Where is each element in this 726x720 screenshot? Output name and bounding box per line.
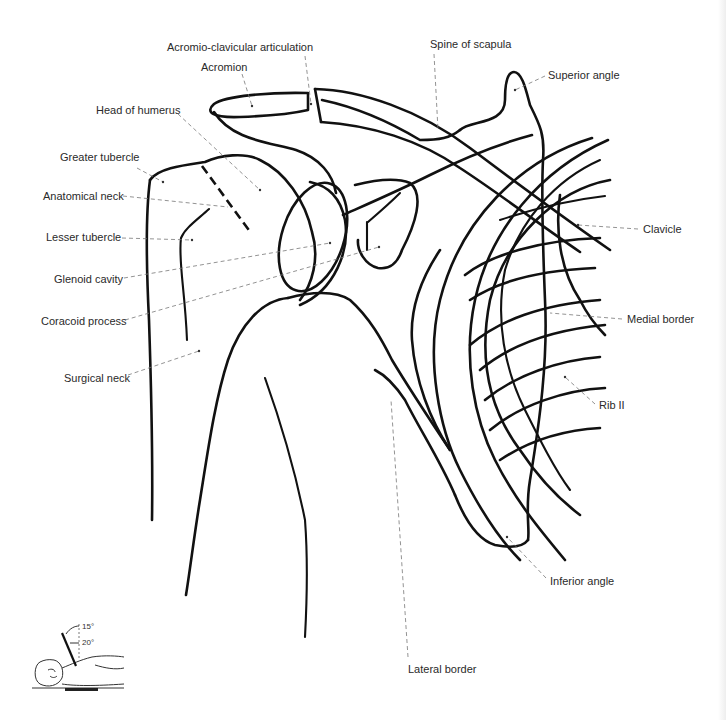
scapula-inferior-angle — [455, 495, 528, 547]
label-superior-angle: Superior angle — [548, 69, 620, 81]
clavicle-end — [315, 89, 321, 122]
label-greater-tubercle: Greater tubercle — [60, 151, 139, 163]
label-rib-ii: Rib II — [599, 399, 625, 411]
ribs — [412, 138, 610, 560]
humerus-outline — [150, 155, 315, 300]
shoulder-diagram: Acromio-clavicular articulation Acromion… — [0, 0, 726, 720]
bone-outlines — [147, 72, 610, 637]
label-acromio-clavicular: Acromio-clavicular articulation — [167, 41, 313, 53]
acromion-underside — [214, 112, 336, 193]
acromion-outline — [210, 93, 308, 117]
humerus-lateral-shaft — [147, 180, 152, 520]
anatomical-neck-dash — [202, 166, 251, 233]
patient-head — [35, 660, 63, 686]
scapula-lateral-border — [375, 370, 455, 495]
diagram-canvas: Acromio-clavicular articulation Acromion… — [0, 0, 726, 720]
leader-lines — [122, 54, 638, 657]
angle-15-label: 15° — [82, 622, 94, 631]
pectoral-line — [265, 378, 307, 637]
angle-20-label: 20° — [82, 638, 94, 647]
positioning-inset: 15° 20° — [32, 622, 124, 691]
label-spine-of-scapula: Spine of scapula — [430, 38, 512, 50]
label-lateral-border: Lateral border — [408, 663, 477, 675]
scapula-body-upper — [343, 135, 532, 215]
label-glenoid-cavity: Glenoid cavity — [54, 273, 124, 285]
label-inferior-angle: Inferior angle — [550, 575, 614, 587]
label-coracoid-process: Coracoid process — [41, 315, 127, 327]
thorax-wall — [288, 293, 450, 450]
axilla-curve — [186, 298, 288, 595]
page-edge-shadow — [718, 0, 726, 720]
x-ray-beam — [62, 633, 76, 666]
label-lesser-tubercle: Lesser tubercle — [46, 231, 121, 243]
label-head-of-humerus: Head of humerus — [96, 104, 181, 116]
label-anatomical-neck: Anatomical neck — [43, 190, 124, 202]
label-surgical-neck: Surgical neck — [64, 372, 131, 384]
label-acromion: Acromion — [201, 61, 247, 73]
label-clavicle: Clavicle — [643, 223, 682, 235]
coracoid-process — [355, 180, 418, 269]
cassette-plate — [65, 688, 98, 691]
patient-body — [62, 656, 124, 686]
label-medial-border: Medial border — [627, 313, 695, 325]
lesser-tubercle-line — [180, 209, 209, 340]
